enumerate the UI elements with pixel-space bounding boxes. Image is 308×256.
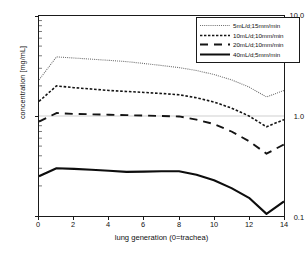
- legend-label-1: 10mL/d;10mm/min: [233, 32, 284, 39]
- x-axis-title: lung generation (0=trachea): [38, 233, 285, 242]
- legend-item-3: 40mL/d;5mm/min: [200, 50, 297, 60]
- legend-swatch-solid-icon: [200, 50, 230, 59]
- figure-container: concentration [mg/mL] 10.0 1.0 0.1 0 2 4…: [0, 0, 308, 256]
- x-tick-label-14: 14: [274, 220, 294, 229]
- x-tick-label-6: 6: [133, 220, 153, 229]
- legend-item-0: 5mL/d;15mm/min: [200, 21, 297, 31]
- y-tick-mark-0-1: [35, 216, 39, 217]
- x-tick-label-4: 4: [98, 220, 118, 229]
- series-line-2: [39, 113, 284, 154]
- legend-label-0: 5mL/d;15mm/min: [233, 22, 280, 29]
- legend-item-2: 20mL/d;10mm/min: [200, 40, 297, 50]
- legend-label-3: 40mL/d;5mm/min: [233, 51, 280, 58]
- x-tick-label-0: 0: [28, 220, 48, 229]
- legend-swatch-dashed-short-icon: [200, 31, 230, 40]
- series-line-3: [39, 168, 284, 214]
- x-tick-label-12: 12: [239, 220, 259, 229]
- series-line-1: [39, 86, 284, 127]
- chart-legend: 5mL/d;15mm/min 10mL/d;10mm/min 20mL/d;10…: [196, 17, 300, 63]
- x-tick-label-8: 8: [169, 220, 189, 229]
- legend-label-2: 20mL/d;10mm/min: [233, 41, 284, 48]
- legend-swatch-dashed-long-icon: [200, 40, 230, 49]
- x-tick-label-10: 10: [204, 220, 224, 229]
- legend-swatch-dotted-icon: [200, 21, 230, 30]
- x-tick-label-2: 2: [63, 220, 83, 229]
- legend-item-1: 10mL/d;10mm/min: [200, 31, 297, 41]
- y-axis-title: concentration [mg/mL]: [18, 13, 27, 153]
